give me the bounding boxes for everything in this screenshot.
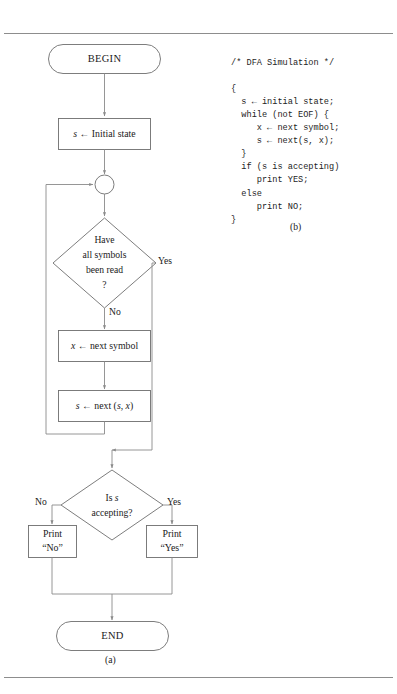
- node-end-label: END: [101, 630, 123, 642]
- node-begin-label: BEGIN: [88, 53, 122, 65]
- edge-print-yes-down: [112, 558, 172, 595]
- node-print-no-line1: Print: [43, 529, 62, 540]
- caption-a: (a): [105, 655, 116, 666]
- node-print-yes-line1: Print: [162, 529, 181, 540]
- node-decision-symbols-line1: Have: [94, 235, 114, 246]
- caption-b: (b): [290, 222, 301, 233]
- node-print-no-line2: “No”: [42, 543, 63, 554]
- node-decision-symbols-line2: all symbols: [83, 250, 127, 261]
- edge-accept-yes: [163, 505, 172, 524]
- branch-label-symbols-no: No: [109, 307, 121, 318]
- node-decision-symbols-line4: ?: [102, 280, 106, 291]
- edge-accept-no: [52, 505, 61, 524]
- code-listing: /* DFA Simulation */ { s ← initial state…: [231, 57, 339, 227]
- node-print-yes-line2: “Yes”: [161, 543, 184, 554]
- node-decision-accept-line2: accepting?: [91, 508, 132, 519]
- figure-root: BEGIN s ← Initial state Have all symbols…: [0, 0, 397, 694]
- node-init-state-label: s ← Initial state: [73, 129, 135, 140]
- node-merge-connector-shape: [95, 175, 114, 194]
- branch-label-accept-no: No: [35, 497, 47, 508]
- node-decision-symbols-line3: been read: [86, 265, 123, 276]
- edge-print-no-down: [52, 558, 112, 595]
- branch-label-accept-yes: Yes: [167, 497, 181, 508]
- branch-label-symbols-yes: Yes: [158, 256, 172, 267]
- node-next-state-label: s ← next (s, x): [76, 401, 133, 412]
- node-next-symbol-label: x ← next symbol: [71, 341, 138, 352]
- node-decision-accept-line1: Is s: [105, 493, 118, 504]
